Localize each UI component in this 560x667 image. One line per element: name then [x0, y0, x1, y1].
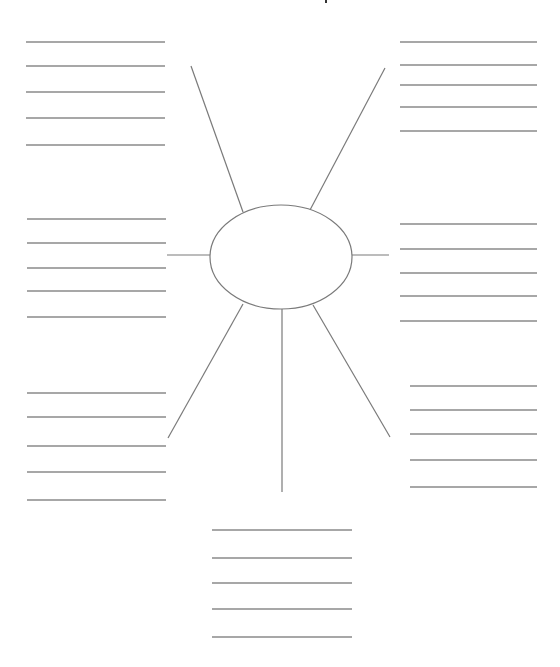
lines-top-left [26, 42, 165, 145]
lines-lower-right [410, 386, 537, 487]
spider-map-diagram [0, 0, 560, 667]
lines-top-right [400, 42, 537, 131]
lines-bottom [212, 530, 352, 637]
lines-middle-left [27, 219, 166, 317]
spoke-upper-right [310, 68, 385, 210]
spoke-lower-left [168, 304, 243, 438]
spoke-upper-left [191, 66, 243, 212]
lines-middle-right [400, 224, 537, 321]
center-oval[interactable] [210, 205, 352, 309]
spoke-lower-right [313, 305, 390, 437]
top-artifact-mark [325, 0, 327, 3]
lines-lower-left [27, 393, 166, 500]
